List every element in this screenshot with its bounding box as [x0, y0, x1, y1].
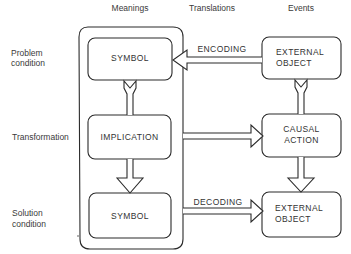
- row-label-line: Problem: [11, 48, 43, 58]
- external-object-label-line2: OBJECT: [276, 58, 312, 68]
- external-object-box-problem: EXTERNAL OBJECT: [262, 37, 341, 79]
- symbol-label: SYMBOL: [111, 53, 149, 63]
- symbol-label: SYMBOL: [111, 211, 149, 221]
- row-label-transformation: Transformation: [12, 132, 69, 142]
- row-label-line: condition: [11, 58, 45, 68]
- external-object-label-line1: EXTERNAL: [275, 203, 323, 213]
- arrow-implication-to-symbol-icon: [124, 81, 136, 115]
- arrow-object-to-action-icon: [295, 80, 307, 114]
- external-object-box-solution: EXTERNAL OBJECT: [262, 192, 341, 237]
- row-label-problem-condition: Problem condition: [11, 48, 45, 68]
- row-label-solution-condition: Solution condition: [12, 208, 46, 229]
- problem-solving-diagram: Meanings Translations Events Problem con…: [0, 0, 351, 254]
- causal-action-label-line1: CAUSAL: [283, 124, 319, 134]
- arrow-implication-to-solution-icon: [117, 159, 143, 193]
- row-label-line: condition: [12, 219, 46, 229]
- column-header-translations: Translations: [189, 3, 235, 13]
- stray-dot: [77, 235, 78, 236]
- implication-label: IMPLICATION: [100, 132, 158, 142]
- symbol-box-problem: SYMBOL: [88, 38, 172, 80]
- arrow-implication-to-causal-action-icon: [183, 125, 263, 147]
- causal-action-label-line2: ACTION: [284, 135, 319, 145]
- encoding-label: ENCODING: [197, 44, 246, 54]
- symbol-box-solution: SYMBOL: [89, 193, 171, 238]
- external-object-label-line1: EXTERNAL: [276, 47, 324, 57]
- column-header-meanings: Meanings: [112, 3, 149, 13]
- arrow-action-to-object-icon: [288, 157, 314, 192]
- row-label-line: Solution: [12, 208, 43, 218]
- external-object-label-line2: OBJECT: [275, 214, 311, 224]
- column-header-events: Events: [288, 3, 314, 13]
- implication-box: IMPLICATION: [88, 115, 171, 159]
- causal-action-box: CAUSAL ACTION: [262, 114, 341, 157]
- decoding-label: DECODING: [193, 197, 242, 207]
